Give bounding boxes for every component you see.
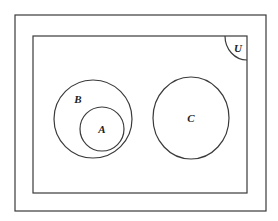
venn-diagram: U B A C [0,0,278,221]
set-b-circle [54,80,132,158]
set-b-label: B [73,93,81,105]
universe-label: U [234,42,243,54]
set-c-label: C [187,112,195,124]
set-a-label: A [97,123,105,135]
universe-rect [33,36,247,193]
